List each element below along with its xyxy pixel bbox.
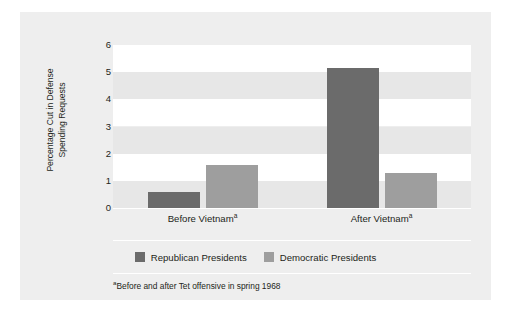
category-label: After Vietnama: [351, 213, 413, 224]
legend-swatch-icon: [135, 252, 145, 262]
legend-swatch-icon: [264, 252, 274, 262]
x-axis-baseline: [113, 208, 471, 209]
y-axis-tick-label: 3: [106, 122, 111, 132]
legend-entry: Democratic Presidents: [264, 252, 377, 263]
chart-legend: Republican PresidentsDemocratic Presiden…: [20, 248, 491, 266]
legend-label: Republican Presidents: [151, 252, 247, 263]
y-axis-tick-label: 6: [106, 40, 111, 50]
legend-entry: Republican Presidents: [135, 252, 247, 263]
grid-band: [113, 72, 471, 99]
y-axis-tick-label: 4: [106, 95, 111, 105]
y-axis-tick-label: 0: [106, 203, 111, 213]
legend-separator-top: [113, 240, 471, 241]
legend-label: Democratic Presidents: [280, 252, 377, 263]
y-axis-title: Percentage Cut in Defense Spending Reque…: [44, 30, 68, 210]
y-axis-tick-label: 2: [106, 149, 111, 159]
chart-footnote: aBefore and after Tet offensive in sprin…: [113, 281, 281, 291]
y-axis-title-line-2: Spending Requests: [56, 30, 68, 210]
legend-separator-bottom: [113, 273, 471, 274]
category-label-text: Before Vietnam: [168, 213, 234, 224]
category-label-superscript: a: [234, 212, 238, 219]
grid-band: [113, 99, 471, 126]
category-label-text: After Vietnam: [351, 213, 409, 224]
y-axis-tick-label: 5: [106, 67, 111, 77]
bar: [327, 68, 379, 208]
bar: [385, 173, 437, 208]
bar: [148, 192, 200, 208]
bar: [206, 165, 258, 208]
category-label-superscript: a: [409, 212, 413, 219]
category-label: Before Vietnama: [168, 213, 238, 224]
y-axis-title-line-1: Percentage Cut in Defense: [44, 30, 56, 210]
grid-band: [113, 45, 471, 72]
grid-band: [113, 127, 471, 154]
y-axis-tick-label: 1: [106, 176, 111, 186]
chart-figure: Percentage Cut in Defense Spending Reque…: [20, 12, 491, 300]
footnote-text: Before and after Tet offensive in spring…: [116, 281, 280, 291]
